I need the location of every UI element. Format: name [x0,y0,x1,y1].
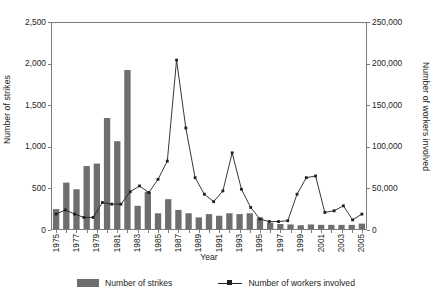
x-axis-tick-mark [301,230,302,233]
bar [328,225,334,229]
bar [226,213,232,229]
line-series-path [56,60,362,221]
line-marker [64,209,67,212]
y-axis-left-tick: 0 [2,225,46,235]
line-marker [110,203,113,206]
line-marker [175,59,178,62]
bar [155,213,161,229]
y-axis-right-tick-mark [367,188,370,189]
x-axis-tick-mark [240,230,241,233]
line-marker [129,190,132,193]
x-axis-tick-mark [189,230,190,233]
x-axis-tick-mark [199,230,200,233]
line-marker [83,216,86,219]
x-axis-tick-mark [291,230,292,233]
line-marker [231,151,234,154]
x-axis-tick-mark [56,230,57,233]
x-axis-tick-mark [66,230,67,233]
bar [94,164,100,229]
x-axis-tick-mark [76,230,77,233]
plot-svg [52,23,366,229]
bar [216,216,222,229]
plot-area [51,22,367,230]
y-axis-left-tick: 500 [2,183,46,193]
x-axis-tick-mark [260,230,261,233]
line-marker [277,220,280,223]
x-axis-tick-mark [209,230,210,233]
x-axis-tick: 1977 [72,234,81,252]
line-marker [314,175,317,178]
y-axis-left-tick-mark [48,230,51,231]
x-axis-tick-mark [250,230,251,233]
line-marker [268,220,271,223]
line-marker [305,176,308,179]
x-axis-tick-mark [342,230,343,233]
bar [206,214,212,229]
x-axis-tick-mark [311,230,312,233]
x-axis-tick-mark [127,230,128,233]
y-axis-right-tick-mark [367,22,370,23]
line-marker [166,160,169,163]
legend-label-workers: Number of workers involved [248,278,355,288]
bar [145,192,151,229]
bar [114,141,120,229]
legend-bar-swatch-icon [77,279,99,287]
x-axis-tick-mark [97,230,98,233]
x-axis-tick-mark [178,230,179,233]
bar [267,223,273,229]
line-marker [323,211,326,214]
bar [247,213,253,229]
bar [318,225,324,229]
line-marker [157,178,160,181]
line-marker [333,209,336,212]
x-axis-tick-mark [270,230,271,233]
x-axis-tick: 1991 [215,234,224,252]
y-axis-right-tick: 100,000 [372,141,432,151]
x-axis-tick-mark [352,230,353,233]
bar [53,209,59,229]
line-marker [249,206,252,209]
line-marker [101,201,104,204]
x-axis-tick: 1975 [52,234,61,252]
x-axis-tick: 1985 [154,234,163,252]
bar [298,225,304,229]
x-axis-title: Year [0,252,418,262]
x-axis-tick: 1987 [174,234,183,252]
y-axis-right-tick-mark [367,105,370,106]
x-axis-tick: 2001 [317,234,326,252]
line-marker [212,200,215,203]
x-axis-tick: 1997 [276,234,285,252]
bar [287,224,293,229]
x-axis-tick: 1981 [113,234,122,252]
y-axis-left-tick: 2,000 [2,58,46,68]
bar [236,214,242,229]
legend-item-workers: Number of workers involved [218,278,355,288]
x-axis-tick-mark [158,230,159,233]
bar [185,213,191,229]
line-marker [203,193,206,196]
bar [165,199,171,229]
x-axis-tick: 1993 [235,234,244,252]
y-axis-right-title: Number of workers involved [421,62,431,171]
x-axis-tick-mark [87,230,88,233]
y-axis-right-tick-mark [367,230,370,231]
y-axis-right-tick: 50,000 [372,183,432,193]
chart-legend: Number of strikes Number of workers invo… [0,278,432,288]
line-marker [286,219,289,222]
bar [277,224,283,229]
y-axis-right-tick-mark [367,147,370,148]
x-axis-tick: 2003 [337,234,346,252]
legend-line-swatch-icon [218,279,242,287]
legend-item-strikes: Number of strikes [77,278,172,288]
x-axis-tick-mark [229,230,230,233]
line-marker [147,191,150,194]
line-marker [351,218,354,221]
bar [359,224,365,229]
line-marker [240,188,243,191]
x-axis-tick-mark [168,230,169,233]
x-axis-tick-mark [138,230,139,233]
line-marker [73,213,76,216]
x-axis-tick-mark [280,230,281,233]
y-axis-left-tick: 2,500 [2,17,46,27]
x-axis-tick: 1983 [133,234,142,252]
